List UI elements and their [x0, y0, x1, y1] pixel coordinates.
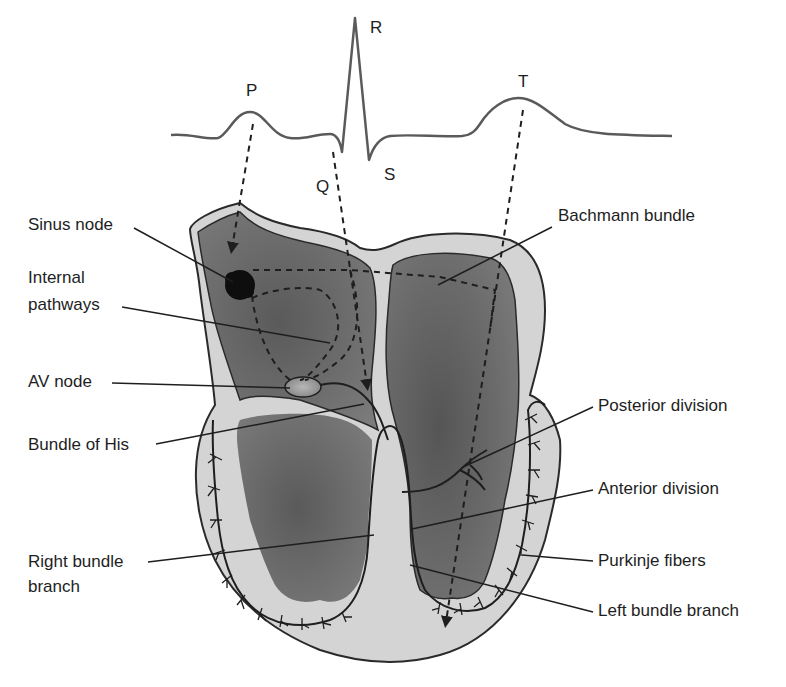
label-right-bundle-branch-2: branch [28, 577, 80, 597]
ecg-label-r: R [370, 18, 382, 38]
diagram-canvas [0, 0, 786, 687]
ecg-label-p: P [246, 81, 257, 101]
label-sinus-node: Sinus node [28, 215, 113, 235]
label-anterior-division: Anterior division [598, 479, 719, 499]
sinus-node [225, 270, 255, 300]
label-right-bundle-branch-1: Right bundle [28, 552, 123, 572]
label-left-bundle-branch: Left bundle branch [598, 601, 739, 621]
ecg-label-q: Q [316, 177, 329, 197]
ecg-label-s: S [384, 165, 395, 185]
cropped-caption-area [0, 680, 786, 687]
label-bundle-of-his: Bundle of His [28, 435, 129, 455]
ecg-label-t: T [518, 72, 528, 92]
label-internal-pathways-1: Internal [28, 268, 85, 288]
label-posterior-division: Posterior division [598, 396, 727, 416]
label-internal-pathways-2: pathways [28, 295, 100, 315]
label-av-node: AV node [28, 372, 92, 392]
label-bachmann-bundle: Bachmann bundle [558, 206, 695, 226]
label-purkinje-fibers: Purkinje fibers [598, 551, 706, 571]
cardiac-conduction-diagram: P Q R S T Sinus node Internal pathways A… [0, 0, 786, 687]
